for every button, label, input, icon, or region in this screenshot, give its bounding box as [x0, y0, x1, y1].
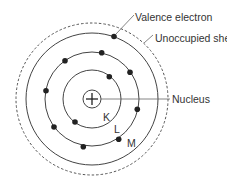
electron-l — [127, 70, 133, 76]
unoccupied-shell-label: Unoccupied shell — [155, 32, 227, 44]
electron-k — [107, 74, 113, 80]
shell-l-label: L — [114, 123, 120, 135]
atom-diagram: Valence electron Unoccupied shell Nucleu… — [0, 0, 227, 183]
valence-electron — [111, 34, 117, 40]
shell-k-label: K — [103, 111, 110, 123]
plus-icon — [86, 93, 98, 105]
valence-electron-label: Valence electron — [135, 11, 213, 23]
valence-leader-line — [116, 15, 134, 34]
shell-m-label: M — [127, 137, 136, 149]
electron-l — [51, 124, 57, 130]
electron-l — [81, 144, 87, 150]
nucleus-label: Nucleus — [172, 93, 210, 105]
electron-l — [135, 107, 141, 113]
electron-k — [72, 119, 78, 125]
electron-l — [43, 88, 49, 94]
electron-l — [62, 58, 68, 64]
unoccupied-leader-line — [144, 35, 153, 43]
electron-l — [99, 50, 105, 56]
electron-l — [116, 137, 122, 143]
